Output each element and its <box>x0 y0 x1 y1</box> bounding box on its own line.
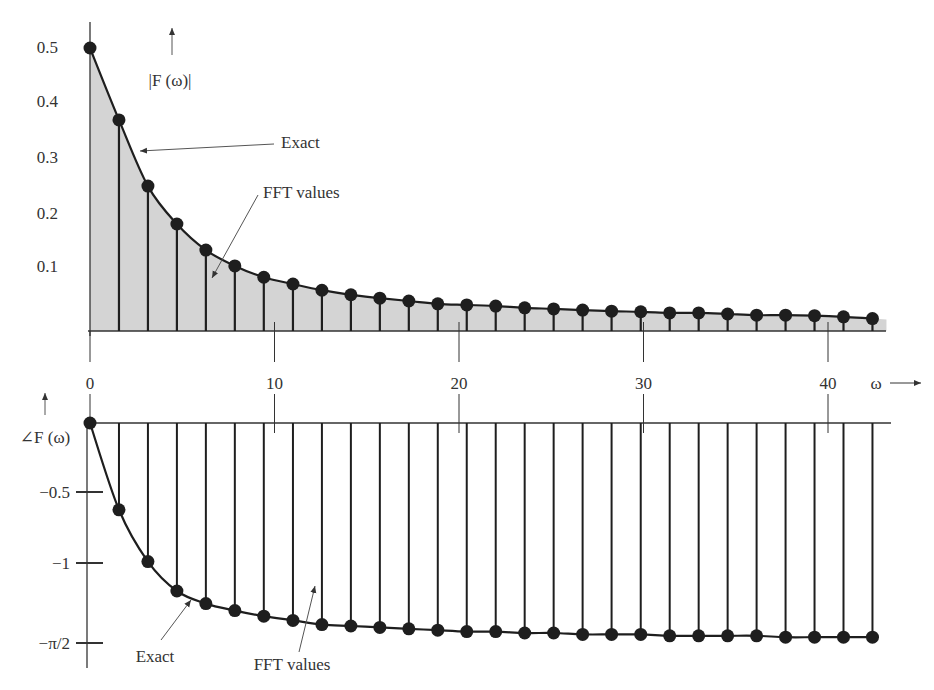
phase-fft-arrow-icon <box>299 586 315 652</box>
magnitude-fft-label: FFT values <box>263 183 340 202</box>
phase-y-tick: −π/2 <box>39 634 70 653</box>
magnitude-fft-point <box>489 300 502 313</box>
magnitude-y-tick: 0.2 <box>37 204 58 223</box>
magnitude-y-tick-labels: 0.50.40.30.20.1 <box>37 38 59 276</box>
phase-fft-point <box>489 625 502 638</box>
magnitude-fft-point <box>84 42 97 55</box>
magnitude-ylabel: |F (ω)| <box>148 71 191 90</box>
phase-fft-point <box>721 629 734 642</box>
magnitude-fft-point <box>576 304 589 317</box>
magnitude-fft-point <box>373 292 386 305</box>
magnitude-fft-point <box>199 244 212 257</box>
phase-y-tick-labels: −0.5−1−π/2 <box>39 483 103 653</box>
magnitude-fft-point <box>547 302 560 315</box>
phase-fft-point <box>373 621 386 634</box>
phase-fft-point <box>779 631 792 644</box>
magnitude-fft-point <box>431 297 444 310</box>
magnitude-fft-point <box>257 271 270 284</box>
fft-spectrum-figure: 0.50.40.30.20.1 |F (ω)| Exact FFT values… <box>0 0 934 690</box>
magnitude-plot: 0.50.40.30.20.1 |F (ω)| Exact FFT values <box>37 22 887 336</box>
phase-fft-point <box>84 417 97 430</box>
phase-fft-point <box>431 624 444 637</box>
magnitude-fft-point <box>866 312 879 325</box>
phase-exact-arrow-icon <box>161 600 191 640</box>
phase-plot: −0.5−1−π/2 ∠F (ω) Exact FFT values <box>20 393 891 674</box>
x-tick-label: 30 <box>635 374 652 393</box>
magnitude-fft-point <box>141 180 154 193</box>
phase-fft-label: FFT values <box>254 655 331 674</box>
x-tick-label: 20 <box>451 374 468 393</box>
magnitude-exact-label: Exact <box>281 133 320 152</box>
x-axis-ticks: 010203040 <box>86 322 837 433</box>
magnitude-exact-arrow-icon <box>140 144 274 151</box>
phase-fft-point <box>866 631 879 644</box>
magnitude-fft-point <box>315 284 328 297</box>
phase-fft-point <box>547 627 560 640</box>
phase-fft-point <box>634 628 647 641</box>
magnitude-y-tick: 0.5 <box>37 38 58 57</box>
magnitude-y-tick: 0.3 <box>37 148 58 167</box>
phase-fft-point <box>315 618 328 631</box>
phase-fft-point <box>344 620 357 633</box>
phase-fft-point <box>170 585 183 598</box>
magnitude-fft-point <box>721 308 734 321</box>
phase-fft-point <box>518 627 531 640</box>
phase-y-tick: −0.5 <box>39 483 70 502</box>
magnitude-fft-point <box>605 305 618 318</box>
magnitude-fft-point <box>692 306 705 319</box>
phase-fft-point <box>402 622 415 635</box>
phase-fft-point <box>257 610 270 623</box>
magnitude-fft-point <box>808 309 821 322</box>
magnitude-fft-point <box>634 305 647 318</box>
magnitude-y-tick: 0.1 <box>37 257 58 276</box>
magnitude-fft-point <box>402 295 415 308</box>
phase-fft-point <box>112 503 125 516</box>
phase-fft-point <box>576 628 589 641</box>
phase-fft-point <box>141 555 154 568</box>
magnitude-fft-point <box>112 113 125 126</box>
magnitude-fft-point <box>460 298 473 311</box>
x-axis-symbol: ω <box>870 374 881 393</box>
magnitude-shaded-area <box>90 48 886 331</box>
phase-fft-point <box>663 629 676 642</box>
magnitude-fft-point <box>228 259 241 272</box>
phase-exact-label: Exact <box>136 647 175 666</box>
phase-fft-point <box>228 604 241 617</box>
x-tick-label: 0 <box>86 374 95 393</box>
phase-fft-point <box>460 625 473 638</box>
phase-fft-point <box>692 629 705 642</box>
magnitude-fft-point <box>286 278 299 291</box>
phase-fft-dots <box>84 417 879 644</box>
magnitude-fft-point <box>663 306 676 319</box>
magnitude-fft-point <box>170 218 183 231</box>
phase-fft-point <box>286 614 299 627</box>
x-tick-label: 40 <box>820 374 837 393</box>
magnitude-fft-point <box>518 301 531 314</box>
magnitude-fft-point <box>344 288 357 301</box>
phase-fft-point <box>605 628 618 641</box>
magnitude-fft-point <box>750 309 763 322</box>
magnitude-fft-point <box>837 310 850 323</box>
x-tick-label: 10 <box>266 374 283 393</box>
phase-fft-point <box>837 631 850 644</box>
phase-y-tick: −1 <box>52 554 70 573</box>
phase-fft-point <box>750 629 763 642</box>
phase-fft-point <box>199 597 212 610</box>
phase-fft-point <box>808 631 821 644</box>
magnitude-fft-point <box>779 309 792 322</box>
magnitude-y-tick: 0.4 <box>37 92 59 111</box>
phase-ylabel: ∠F (ω) <box>20 428 70 447</box>
